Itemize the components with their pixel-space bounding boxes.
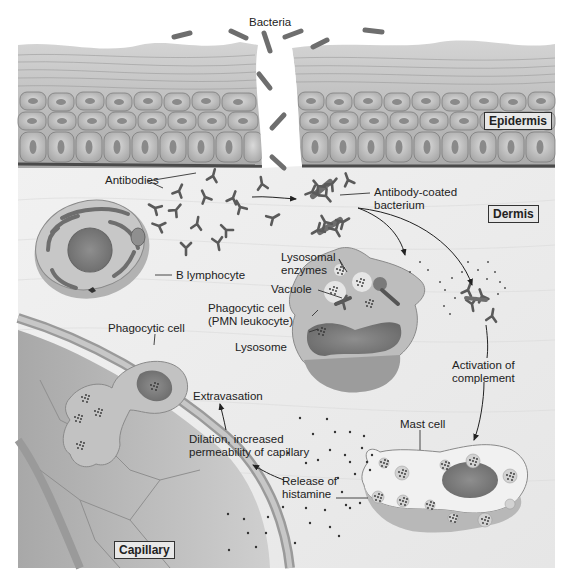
- epidermis-left: [18, 42, 262, 168]
- label-bacteria: Bacteria: [249, 16, 291, 29]
- label-release-line1: Release of: [282, 475, 337, 488]
- label-phagocytic-cell: Phagocytic cell: [108, 322, 185, 335]
- label-phagocytic-pmn-line2: (PMN leukocyte): [208, 315, 293, 328]
- label-b-lymphocyte: B lymphocyte: [176, 269, 245, 282]
- label-dilation-line1: Dilation, increased: [189, 433, 284, 446]
- region-label-dermis: Dermis: [488, 205, 539, 223]
- inflammation-diagram: Bacteria Epidermis Dermis Capillary Anti…: [0, 0, 569, 580]
- label-lysosomal-line2: enzymes: [281, 264, 327, 277]
- label-vacuole: Vacuole: [271, 283, 312, 296]
- label-antibody-coated-line1: Antibody-coated: [374, 186, 457, 199]
- label-release-line2: histamine: [282, 488, 331, 501]
- label-antibodies: Antibodies: [105, 174, 159, 187]
- mast-cell: [362, 445, 528, 533]
- label-mast-cell: Mast cell: [400, 418, 445, 431]
- region-label-epidermis: Epidermis: [484, 112, 552, 130]
- label-dilation-line2: permeability of capillary: [189, 446, 309, 459]
- label-antibody-coated-line2: bacterium: [374, 199, 425, 212]
- region-label-capillary: Capillary: [114, 541, 175, 559]
- label-lysosome: Lysosome: [235, 341, 287, 354]
- epidermis-right: [292, 40, 555, 168]
- label-activation-line1: Activation of: [452, 359, 515, 372]
- label-activation-line2: complement: [452, 372, 515, 385]
- label-extravasation: Extravasation: [193, 390, 263, 403]
- label-phagocytic-pmn-line1: Phagocytic cell: [208, 302, 285, 315]
- label-lysosomal-line1: Lysosomal: [281, 251, 336, 264]
